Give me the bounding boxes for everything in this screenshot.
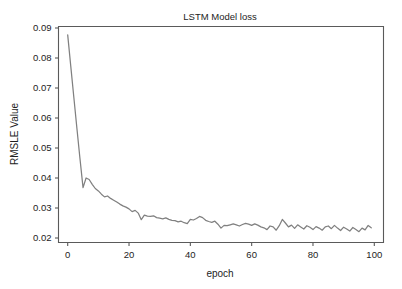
series-line-train-loss (68, 35, 372, 232)
x-tick-label: 60 (246, 249, 257, 260)
chart-figure: LSTM Model loss 0.020.030.040.050.060.07… (0, 0, 402, 289)
x-tick-label: 80 (308, 249, 319, 260)
y-tick-label: 0.03 (33, 202, 52, 213)
x-tick-label: 0 (65, 249, 70, 260)
axis-frame (59, 27, 384, 243)
x-tick-label: 100 (366, 249, 382, 260)
y-axis-ticks: 0.020.030.040.050.060.070.080.09 (33, 22, 59, 243)
x-tick-label: 20 (124, 249, 135, 260)
chart-title: LSTM Model loss (183, 11, 257, 22)
y-tick-label: 0.07 (33, 82, 52, 93)
y-tick-label: 0.08 (33, 52, 52, 63)
x-axis-title: epoch (206, 268, 233, 279)
y-tick-label: 0.06 (33, 112, 52, 123)
y-tick-label: 0.09 (33, 22, 52, 33)
x-axis-ticks: 020406080100 (65, 243, 382, 260)
y-tick-label: 0.05 (33, 142, 52, 153)
y-axis-title: RMSLE Value (9, 103, 20, 166)
x-tick-label: 40 (185, 249, 196, 260)
y-tick-label: 0.04 (33, 172, 52, 183)
lstm-loss-line-chart: LSTM Model loss 0.020.030.040.050.060.07… (0, 0, 402, 289)
y-tick-label: 0.02 (33, 232, 52, 243)
